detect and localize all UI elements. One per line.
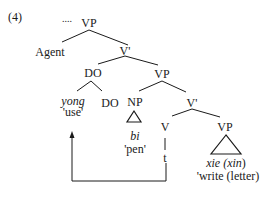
gloss-use: 'use' xyxy=(63,106,83,118)
gloss-pen: 'pen' xyxy=(124,143,146,155)
example-number: (4) xyxy=(8,11,22,23)
node-do-head: DO xyxy=(101,97,118,109)
trace-t: t xyxy=(163,152,166,164)
ellipsis: .... xyxy=(62,13,72,25)
np-triangle xyxy=(127,111,141,122)
node-vp-root: VP xyxy=(81,17,96,29)
word-bi: bi xyxy=(130,130,139,142)
paren-close: ) xyxy=(242,156,246,170)
word-xie: xie ( xyxy=(206,156,227,170)
node-vp-2: VP xyxy=(154,68,169,80)
word-xie-xin: xie (xin) xyxy=(206,157,246,169)
gloss-write-letter: 'write (letter) xyxy=(197,170,259,182)
node-np: NP xyxy=(127,96,142,108)
arrowhead-icon xyxy=(70,131,75,138)
node-vbar-2: V' xyxy=(187,97,198,109)
word-xin: xin xyxy=(227,156,242,170)
node-vbar-1: V' xyxy=(120,45,131,57)
node-agent: Agent xyxy=(35,46,64,58)
node-do-phrase: DO xyxy=(84,67,101,79)
node-v: V xyxy=(161,121,170,133)
node-vp-3: VP xyxy=(217,121,232,133)
vp-triangle xyxy=(211,135,241,154)
